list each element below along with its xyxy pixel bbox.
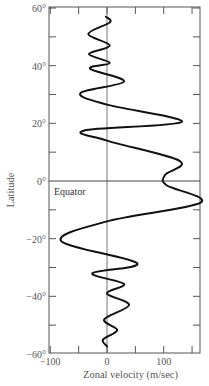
x-tick-label: 0: [105, 356, 110, 367]
y-tick-label: −60°: [26, 349, 46, 360]
y-tick-label: 20°: [32, 118, 46, 129]
y-tick-label: −20°: [26, 234, 46, 245]
y-tick-label: 60°: [32, 3, 46, 14]
x-axis-title: Zonal velocity (m/sec): [83, 369, 179, 381]
equator-label: Equator: [54, 186, 86, 197]
y-axis-title: Latitude: [5, 172, 16, 207]
y-tick-label: −40°: [26, 291, 46, 302]
x-tick-label: 100: [156, 356, 171, 367]
y-tick-label: 0°: [37, 176, 46, 187]
y-tick-label: 40°: [32, 61, 46, 72]
zonal-velocity-chart: −100010060°40°20°0°−20°−40°−60°Zonal vel…: [0, 0, 209, 386]
